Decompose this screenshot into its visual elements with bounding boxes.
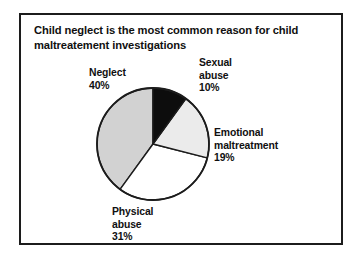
pie-label-neglect: Neglect 40%	[89, 67, 126, 92]
pie-label-neglect-value: 40%	[89, 80, 126, 93]
pie-label-sexual-abuse: Sexual abuse 10%	[199, 57, 232, 95]
pie-chart: Neglect 40% Sexual abuse 10% Emotional m…	[21, 15, 345, 247]
pie-label-sexual-abuse-name-line2: abuse	[199, 70, 232, 83]
pie-label-emotional-maltreatment-name-line2: maltreatment	[214, 140, 278, 153]
pie-label-neglect-name: Neglect	[89, 67, 126, 78]
pie-label-physical-abuse-name-line1: Physical	[112, 206, 153, 217]
pie-label-emotional-maltreatment: Emotional maltreatment 19%	[214, 127, 278, 165]
pie-label-physical-abuse-name-line2: abuse	[112, 219, 153, 232]
pie-label-physical-abuse-value: 31%	[112, 231, 153, 244]
pie-label-physical-abuse: Physical abuse 31%	[112, 206, 153, 244]
pie-label-sexual-abuse-name-line1: Sexual	[199, 57, 232, 68]
pie-label-sexual-abuse-value: 10%	[199, 82, 232, 95]
chart-figure-frame: Child neglect is the most common reason …	[19, 13, 343, 245]
pie-label-emotional-maltreatment-name-line1: Emotional	[214, 127, 263, 138]
pie-label-emotional-maltreatment-value: 19%	[214, 152, 278, 165]
pie-chart-svg	[21, 15, 345, 247]
